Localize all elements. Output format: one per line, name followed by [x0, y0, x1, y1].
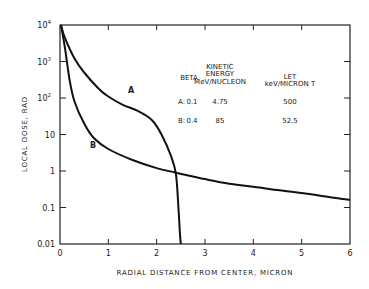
axis-ticks: [60, 25, 350, 244]
legend-row-a-beta: 0.1: [186, 98, 197, 106]
x-tick-label: 1: [106, 249, 111, 258]
legend-row-b-energy: 85: [216, 117, 225, 125]
legend-row-b-label: B:: [178, 117, 185, 125]
legend-row-a-label: A:: [178, 98, 185, 106]
legend-row-b-beta: 0.4: [186, 117, 198, 125]
dose-chart: 01234561041031021010.10.01 A B KINETIC E…: [0, 0, 369, 289]
legend-header-energy-2: ENERGY: [206, 70, 235, 78]
y-axis-title: LOCAL DOSE, RAD: [21, 96, 29, 172]
legend-row-b-let: 52.5: [282, 117, 298, 125]
curve-b: [61, 25, 350, 200]
x-tick-label: 4: [251, 249, 256, 258]
y-tick-label: 103: [37, 56, 51, 67]
legend-row-a-energy: 4.75: [212, 98, 228, 106]
curve-a: [61, 25, 181, 244]
x-tick-label: 0: [57, 249, 62, 258]
x-tick-label: 5: [299, 249, 304, 258]
y-tick-label: 104: [37, 19, 51, 30]
y-tick-label: 0.01: [37, 240, 55, 249]
legend-header-beta: BETA: [180, 74, 198, 82]
x-tick-label: 2: [154, 249, 159, 258]
y-tick-label: 1: [50, 167, 55, 176]
legend-header-let-2: keV/MICRON T: [265, 80, 316, 88]
curve-b-label: B: [90, 141, 96, 150]
x-axis-title: RADIAL DISTANCE FROM CENTER, MICRON: [117, 269, 294, 277]
y-tick-label: 102: [37, 92, 51, 103]
plot-frame: [60, 25, 350, 244]
y-tick-label: 0.1: [42, 204, 55, 213]
x-tick-label: 3: [202, 249, 207, 258]
x-tick-label: 6: [347, 249, 352, 258]
y-tick-label: 10: [45, 131, 55, 140]
axis-tick-labels: 01234561041031021010.10.01: [37, 19, 352, 258]
legend-header-energy-3: MeV/NUCLEON: [194, 78, 246, 86]
legend-row-a-let: 500: [283, 98, 296, 106]
curve-a-label: A: [128, 86, 135, 95]
legend-table: KINETIC ENERGY MeV/NUCLEON BETA LET keV/…: [178, 63, 316, 125]
